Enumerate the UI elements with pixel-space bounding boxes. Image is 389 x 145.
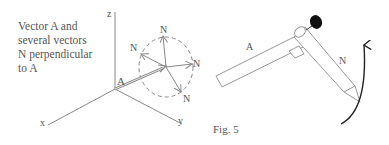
rod-a: A — [216, 36, 305, 87]
normal-vector-right — [166, 64, 192, 67]
pencil-n: N — [293, 13, 360, 102]
pencil-n-label: N — [339, 55, 346, 66]
normal-vector-label: N — [160, 24, 167, 35]
vector-a: A — [115, 65, 166, 89]
normal-vector-label: N — [183, 93, 190, 104]
knob-icon — [308, 13, 324, 30]
rod-a-body — [216, 36, 305, 87]
normal-vectors: N N N N — [130, 24, 200, 104]
normal-vector-up — [163, 36, 166, 67]
normal-vector-label: N — [130, 42, 137, 53]
vector-a-label: A — [117, 75, 125, 87]
normal-vector-left — [141, 54, 166, 67]
figure-label: Fig. 5 — [213, 123, 239, 135]
z-axis-label: z — [107, 8, 112, 19]
y-axis-label: y — [178, 115, 183, 126]
normal-vector-label: N — [193, 58, 200, 69]
x-axis-label: x — [40, 117, 45, 128]
pencil-n-body — [294, 27, 360, 102]
rod-a-label: A — [246, 41, 254, 52]
y-axis — [115, 89, 182, 124]
figure-canvas: z x y A N N N N A N Fig. 5 — [0, 0, 389, 145]
normal-vector-down — [166, 67, 181, 92]
x-axis — [48, 89, 115, 125]
